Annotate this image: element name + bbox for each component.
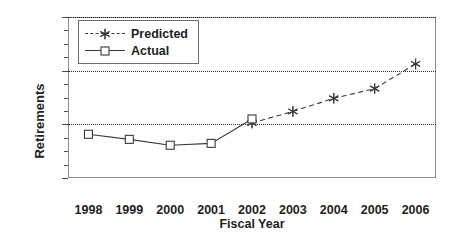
marker-star (288, 106, 297, 116)
retirements-line-chart: Retirements 0200400600 19981999200020012… (0, 0, 465, 242)
y-axis-title: Retirements (26, 0, 52, 242)
marker-star (370, 83, 379, 93)
legend-label: Predicted (131, 27, 188, 41)
marker-square (248, 115, 256, 123)
marker-square (101, 47, 109, 55)
legend-key-star-icon (85, 27, 125, 41)
x-tick-label-2006: 2006 (390, 203, 442, 217)
marker-star (411, 59, 420, 69)
marker-square (125, 135, 133, 143)
legend-item-actual[interactable]: Actual (85, 42, 188, 59)
marker-square (166, 141, 174, 149)
marker-square (84, 130, 92, 138)
chart-legend: PredictedActual (78, 20, 199, 64)
legend-key-square-icon (85, 44, 125, 58)
marker-star (329, 93, 338, 103)
y-major-tick-0 (62, 178, 68, 179)
marker-square (207, 139, 215, 147)
legend-item-predicted[interactable]: Predicted (85, 25, 188, 42)
legend-label: Actual (131, 44, 169, 58)
x-axis-title: Fiscal Year (68, 217, 436, 231)
marker-star (100, 28, 109, 38)
